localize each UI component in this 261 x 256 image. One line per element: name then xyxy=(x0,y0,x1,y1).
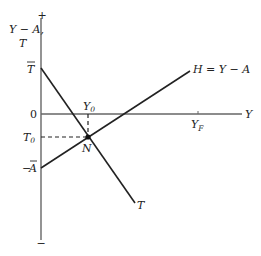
diagram-canvas: + − Y − A, T T 0 T0 − A Y0 N YF Y H = Y … xyxy=(0,0,261,256)
n-label: N xyxy=(81,142,92,155)
h-line xyxy=(41,71,190,168)
x-axis-label: Y xyxy=(245,108,254,121)
a-bar-label: A xyxy=(28,162,37,175)
yf-label: YF xyxy=(191,118,204,133)
y0-label: Y0 xyxy=(83,100,95,114)
minus-sign: − xyxy=(37,237,46,250)
zero-label: 0 xyxy=(30,108,37,121)
t-line-label: T xyxy=(137,199,146,212)
plus-sign: + xyxy=(38,9,47,22)
t0-label: T0 xyxy=(23,131,35,145)
h-line-label: H = Y − A xyxy=(192,63,250,76)
t-bar-label: T xyxy=(27,63,36,76)
y-axis-label-line1: Y − A, xyxy=(9,23,44,36)
equilibrium-point-n xyxy=(85,134,90,139)
y-axis-label-line2: T xyxy=(19,37,28,50)
diagram-svg: + − Y − A, T T 0 T0 − A Y0 N YF Y H = Y … xyxy=(0,0,261,256)
